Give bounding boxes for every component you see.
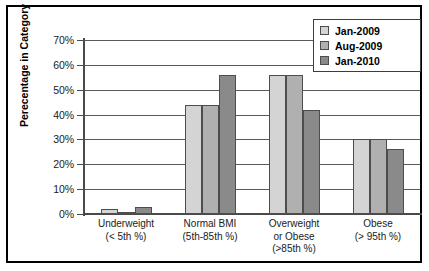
bar[interactable] [185, 105, 202, 214]
x-axis-category-line: (5th-85th %) [168, 231, 252, 244]
y-axis-tick [77, 214, 83, 215]
legend-label: Jan-2010 [335, 55, 380, 67]
y-axis-tick [77, 65, 83, 66]
x-axis-category-label: Normal BMI(5th-85th %) [168, 218, 252, 243]
x-axis-category-line: Obese [336, 218, 420, 231]
x-axis-category-line: Normal BMI [168, 218, 252, 231]
y-axis-tick-label: 0% [59, 208, 74, 220]
y-axis-tick-label: 70% [53, 34, 74, 46]
legend-item[interactable]: Aug-2009 [320, 38, 416, 53]
bar[interactable] [370, 139, 387, 214]
bar[interactable] [353, 139, 370, 214]
y-axis-tick-label: 60% [53, 59, 74, 71]
x-axis-category-line: (> 95th %) [336, 231, 420, 244]
legend-swatch-icon [320, 41, 329, 50]
y-axis-tick-label: 20% [53, 158, 74, 170]
x-axis-category-line: (>85th %) [252, 243, 336, 256]
bar[interactable] [387, 149, 404, 214]
y-axis-title: Perecentage in Category [18, 4, 30, 127]
y-axis-tick [77, 189, 83, 190]
y-axis-tick [77, 90, 83, 91]
bar[interactable] [219, 75, 236, 214]
x-axis-category-line: (< 5th %) [84, 231, 168, 244]
chart-legend: Jan-2009 Aug-2009 Jan-2010 [313, 19, 421, 72]
bar[interactable] [118, 212, 135, 214]
bar[interactable] [135, 207, 152, 214]
bar[interactable] [286, 75, 303, 214]
x-axis-category-label: Obese(> 95th %) [336, 218, 420, 243]
bar[interactable] [269, 75, 286, 214]
legend-swatch-icon [320, 56, 329, 65]
y-axis-tick-label: 10% [53, 183, 74, 195]
legend-swatch-icon [320, 26, 329, 35]
y-axis-tick [77, 164, 83, 165]
y-axis-tick-label: 40% [53, 109, 74, 121]
x-axis-category-line: Underweight [84, 218, 168, 231]
x-axis-category-line: or Obese [252, 231, 336, 244]
x-axis-category-line: Overweight [252, 218, 336, 231]
y-axis-tick [77, 115, 83, 116]
y-axis-tick-label: 30% [53, 133, 74, 145]
legend-item[interactable]: Jan-2009 [320, 23, 416, 38]
legend-label: Jan-2009 [335, 25, 380, 37]
x-axis-category-label: Underweight(< 5th %) [84, 218, 168, 243]
legend-item[interactable]: Jan-2010 [320, 53, 416, 68]
x-axis-category-label: Overweightor Obese(>85th %) [252, 218, 336, 256]
bar[interactable] [101, 209, 118, 214]
y-axis-tick [77, 40, 83, 41]
chart-frame: Perecentage in Category 0%10%20%30%40%50… [6, 5, 422, 263]
bar-group [84, 40, 168, 214]
bar[interactable] [202, 105, 219, 214]
y-axis-tick [77, 139, 83, 140]
bar-group [168, 40, 252, 214]
bar[interactable] [303, 110, 320, 214]
legend-label: Aug-2009 [335, 40, 382, 52]
y-axis-tick-label: 50% [53, 84, 74, 96]
